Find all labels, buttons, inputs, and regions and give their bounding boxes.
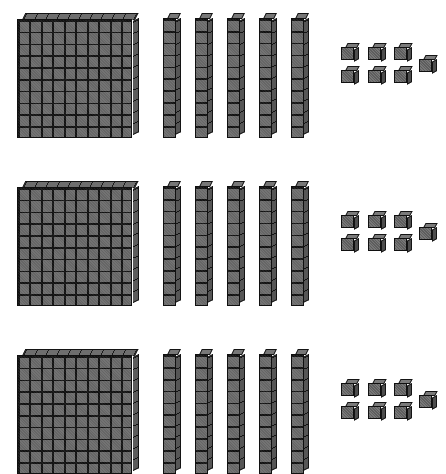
ones-unit-cube <box>394 379 412 397</box>
unit-front-face <box>341 47 354 60</box>
unit-side-face <box>354 70 359 85</box>
base-ten-blocks-canvas <box>0 0 446 474</box>
ones-unit-cube <box>419 223 437 241</box>
unit-front-face <box>394 383 407 396</box>
unit-front-face <box>341 406 354 419</box>
unit-front-face <box>368 70 381 83</box>
unit-front-face <box>368 238 381 251</box>
ones-unit-cube <box>394 234 412 252</box>
unit-side-face <box>432 395 437 410</box>
unit-side-face <box>432 59 437 74</box>
unit-front-face <box>394 47 407 60</box>
unit-front-face <box>419 395 432 408</box>
ones-unit-cube <box>419 55 437 73</box>
ones-unit-cube <box>368 402 386 420</box>
ones-unit-cube <box>394 66 412 84</box>
ones-unit-cube <box>368 379 386 397</box>
unit-front-face <box>341 383 354 396</box>
unit-front-face <box>341 238 354 251</box>
ones-unit-cube <box>341 211 359 229</box>
unit-front-face <box>394 70 407 83</box>
unit-side-face <box>381 70 386 85</box>
ones-unit-cube <box>394 402 412 420</box>
ones-group <box>0 13 446 171</box>
unit-side-face <box>407 47 412 62</box>
unit-front-face <box>394 238 407 251</box>
ones-unit-cube <box>394 43 412 61</box>
unit-side-face <box>381 383 386 398</box>
unit-side-face <box>381 406 386 421</box>
unit-front-face <box>368 215 381 228</box>
unit-front-face <box>341 215 354 228</box>
block-row <box>0 181 446 339</box>
block-row <box>0 13 446 171</box>
ones-unit-cube <box>394 211 412 229</box>
ones-unit-cube <box>368 234 386 252</box>
unit-front-face <box>419 227 432 240</box>
unit-side-face <box>381 215 386 230</box>
unit-side-face <box>354 383 359 398</box>
ones-unit-cube <box>419 391 437 409</box>
unit-side-face <box>354 215 359 230</box>
unit-side-face <box>354 238 359 253</box>
ones-group <box>0 349 446 474</box>
unit-side-face <box>432 227 437 242</box>
ones-unit-cube <box>368 66 386 84</box>
ones-unit-cube <box>341 43 359 61</box>
ones-unit-cube <box>368 211 386 229</box>
unit-side-face <box>407 406 412 421</box>
ones-group <box>0 181 446 339</box>
unit-front-face <box>341 70 354 83</box>
ones-unit-cube <box>341 379 359 397</box>
unit-side-face <box>354 406 359 421</box>
ones-unit-cube <box>341 66 359 84</box>
ones-unit-cube <box>341 402 359 420</box>
unit-front-face <box>368 406 381 419</box>
unit-side-face <box>381 238 386 253</box>
unit-side-face <box>407 383 412 398</box>
unit-side-face <box>407 215 412 230</box>
unit-front-face <box>368 383 381 396</box>
unit-side-face <box>407 238 412 253</box>
unit-side-face <box>354 47 359 62</box>
unit-front-face <box>368 47 381 60</box>
block-row <box>0 349 446 474</box>
unit-side-face <box>407 70 412 85</box>
unit-side-face <box>381 47 386 62</box>
unit-front-face <box>394 215 407 228</box>
unit-front-face <box>419 59 432 72</box>
ones-unit-cube <box>341 234 359 252</box>
ones-unit-cube <box>368 43 386 61</box>
unit-front-face <box>394 406 407 419</box>
